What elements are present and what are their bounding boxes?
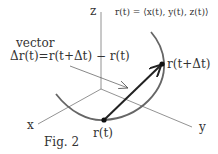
vector-label-title: vector [16,37,54,49]
x-axis-label: x [27,119,34,131]
y-axis [101,89,192,127]
point-r-t [101,117,106,122]
curve-formula: r(t) = ⟨x(t), y(t), z(t)⟩ [115,8,209,17]
y-axis-label: y [199,121,206,133]
label-pointer-arrow [70,66,128,88]
diagram-canvas: z r(t) = ⟨x(t), y(t), z(t)⟩ vector Δr(t)… [0,0,218,154]
point-label-r-t-dt: r(t+Δt) [167,58,210,70]
z-axis-label: z [90,5,96,17]
vector-label-formula: Δr(t)=r(t+Δt) − r(t) [10,50,130,62]
point-r-t-dt [159,61,164,66]
figure-caption: Fig. 2 [44,136,79,148]
point-label-r-t: r(t) [93,127,113,139]
space-curve [56,32,164,120]
